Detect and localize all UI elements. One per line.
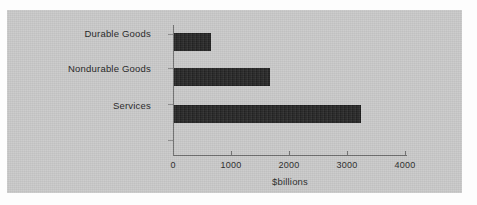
bar-services — [174, 105, 361, 123]
chart-screenshot: 0 1000 2000 3000 4000 $billions Durable … — [0, 0, 477, 205]
bar-durable-goods — [174, 33, 211, 51]
y-axis-tick — [168, 140, 173, 141]
x-axis-line — [173, 155, 407, 156]
bar-nondurable-goods — [174, 68, 270, 86]
category-label-services: Services — [0, 100, 151, 111]
bar-chart-panel: 0 1000 2000 3000 4000 $billions Durable … — [7, 10, 462, 193]
x-axis-tick-4000 — [405, 151, 406, 156]
x-axis-tick-3000 — [347, 151, 348, 156]
plot-area: 0 1000 2000 3000 4000 $billions Durable … — [7, 10, 462, 193]
category-label-durable-goods: Durable Goods — [0, 28, 151, 39]
x-axis-tick-label-2000: 2000 — [279, 160, 300, 170]
x-axis-tick-label-1000: 1000 — [221, 160, 242, 170]
x-axis-tick-label-3000: 3000 — [337, 160, 358, 170]
y-axis-tick — [168, 104, 173, 105]
x-axis-tick-0 — [173, 151, 174, 156]
x-axis-tick-label-4000: 4000 — [395, 160, 416, 170]
x-axis-tick-1000 — [231, 151, 232, 156]
y-axis-tick — [168, 68, 173, 69]
category-label-nondurable-goods: Nondurable Goods — [0, 63, 151, 74]
x-axis-tick-label-0: 0 — [170, 160, 175, 170]
x-axis-title: $billions — [173, 176, 407, 187]
y-axis-tick — [168, 34, 173, 35]
x-axis-tick-2000 — [289, 151, 290, 156]
